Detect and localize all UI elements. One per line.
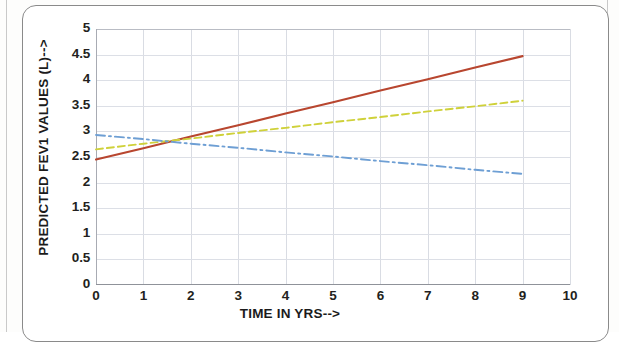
plot-area bbox=[96, 29, 570, 285]
x-tick-label: 6 bbox=[363, 288, 397, 303]
gridline-vertical bbox=[570, 29, 571, 285]
x-tick-label: 10 bbox=[553, 288, 587, 303]
x-tick-label: 2 bbox=[174, 288, 208, 303]
x-tick-label: 3 bbox=[221, 288, 255, 303]
x-tick-label: 1 bbox=[126, 288, 160, 303]
x-tick-label: 5 bbox=[316, 288, 350, 303]
series-container bbox=[96, 29, 570, 285]
x-tick-label: 8 bbox=[458, 288, 492, 303]
x-tick-label: 9 bbox=[506, 288, 540, 303]
x-tick-label: 7 bbox=[411, 288, 445, 303]
x-tick-label: 4 bbox=[269, 288, 303, 303]
x-tick-label: 0 bbox=[79, 288, 113, 303]
line-series-blue bbox=[96, 135, 523, 174]
